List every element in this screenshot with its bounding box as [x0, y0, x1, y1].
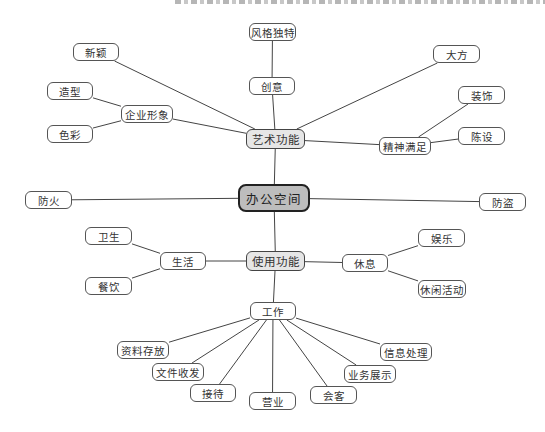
- leaf-node: 营业: [249, 392, 296, 410]
- leaf-node: 工作: [250, 302, 296, 320]
- leaf-node: 餐饮: [85, 277, 132, 295]
- edge-art-spirit: [305, 141, 379, 145]
- leaf-node: 资料存放: [117, 341, 169, 359]
- leaf-node: 信息处理: [380, 343, 432, 361]
- leaf-node: 接待: [190, 384, 236, 402]
- leaf-node: 娱乐: [418, 229, 465, 247]
- edge-life-dining: [132, 269, 160, 278]
- leaf-node: 精神满足: [379, 137, 431, 155]
- leaf-node: 文件收发: [152, 363, 204, 381]
- connector-lines: [0, 0, 545, 432]
- branch-node: 使用功能: [246, 251, 305, 271]
- edge-work-docs: [192, 320, 259, 363]
- leaf-node: 风格独特: [249, 23, 296, 41]
- edge-work-archive: [169, 318, 250, 342]
- root-node: 办公空间: [238, 184, 310, 212]
- edge-work-reception: [220, 320, 267, 384]
- edge-art-generous: [297, 63, 438, 129]
- edge-root-fire: [72, 198, 238, 199]
- leaf-node: 装饰: [458, 86, 505, 104]
- edge-rest-fun: [388, 246, 418, 256]
- leaf-node: 防火: [25, 191, 72, 209]
- leaf-node: 陈设: [458, 127, 505, 145]
- leaf-node: 卫生: [85, 227, 132, 245]
- leaf-node: 造型: [47, 82, 93, 100]
- edge-work-showcase: [287, 320, 356, 365]
- edge-life-hygiene: [132, 244, 160, 253]
- leaf-node: 企业形象: [121, 105, 173, 123]
- edge-work-guests: [279, 320, 327, 386]
- edge-root-art: [274, 149, 275, 184]
- leaf-node: 生活: [160, 252, 206, 270]
- leaf-node: 休闲活动: [418, 280, 466, 298]
- leaf-node: 大方: [433, 45, 480, 63]
- edge-use-rest: [305, 262, 342, 263]
- edge-root-use: [274, 212, 275, 251]
- leaf-node: 休息: [342, 254, 388, 272]
- edge-spirit-furnish: [431, 139, 458, 143]
- edge-work-info: [296, 318, 380, 344]
- leaf-node: 新颖: [73, 43, 119, 61]
- edge-rest-leisure: [388, 271, 418, 281]
- leaf-node: 业务展示: [344, 365, 396, 383]
- edge-image-color: [93, 121, 121, 128]
- edge-art-image: [173, 119, 246, 133]
- edge-image-shape: [93, 98, 121, 106]
- leaf-node: 防盗: [479, 193, 526, 211]
- leaf-node: 创意: [249, 77, 295, 95]
- edge-art-creative: [273, 95, 275, 129]
- edge-root-theft: [310, 199, 479, 202]
- leaf-node: 会客: [310, 386, 357, 404]
- edge-use-work: [273, 271, 275, 302]
- leaf-node: 色彩: [47, 125, 93, 143]
- branch-node: 艺术功能: [246, 129, 305, 149]
